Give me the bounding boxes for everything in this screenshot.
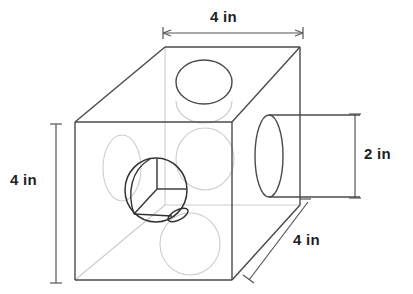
hidden-geometry-group xyxy=(75,47,300,280)
technical-drawing-svg xyxy=(0,0,413,294)
hidden-circle-back-left xyxy=(103,135,141,201)
dimension-label-depth: 4 in xyxy=(293,232,320,247)
hidden-back-bottom-diagonal xyxy=(75,205,165,280)
cylinder-near-end-ellipse xyxy=(255,115,283,197)
cube-edge-top-left-diagonal xyxy=(75,47,165,122)
cube-body-group xyxy=(75,47,300,280)
bore-intersection-lower-diagonal xyxy=(134,214,172,216)
hidden-circle-bottom-hole xyxy=(160,213,220,275)
cube-edge-right-bottom-diagonal xyxy=(232,205,300,280)
hidden-circle-interior-upper xyxy=(176,128,234,190)
figure-canvas: 4 in 4 in 2 in 4 in xyxy=(0,0,413,294)
protruding-cylinder-group xyxy=(255,115,360,197)
dimension-label-left-height: 4 in xyxy=(10,172,37,187)
dimension-label-right-height: 2 in xyxy=(364,146,391,161)
dimension-label-top-width: 4 in xyxy=(210,9,237,24)
bore-intersection-diagonal-line xyxy=(134,189,157,214)
cube-edge-top-right-diagonal xyxy=(232,47,300,122)
hole-top-face-opening xyxy=(176,60,232,104)
